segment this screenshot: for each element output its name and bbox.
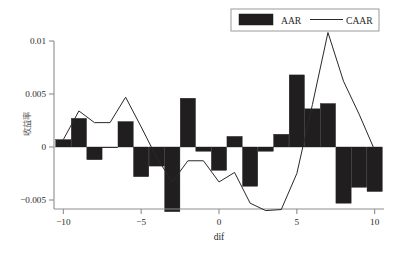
bar [320,104,335,147]
bar [211,147,226,170]
bar [102,147,117,148]
chart-container: −0.00500.0050.01 −10−50510 收益率 dif AAR C… [0,0,394,255]
bar [289,75,304,147]
bar [56,140,71,147]
x-tick-label: −5 [136,217,146,227]
bar [367,147,382,192]
bar [71,118,86,147]
x-tick-label: 0 [217,217,222,227]
bar [118,122,133,147]
y-axis-title: 收益率 [22,112,32,136]
y-tick-label: 0.005 [25,89,46,99]
bar [196,147,211,151]
bar [87,147,102,160]
bar-series-aar [56,75,383,212]
legend-label-caar: CAAR [346,15,373,26]
x-axis-ticks: −10−50510 [56,209,380,227]
bar [227,136,242,147]
y-tick-label: −0.005 [20,195,46,205]
legend-label-aar: AAR [281,15,302,26]
bar [351,147,366,187]
x-tick-label: 10 [370,217,380,227]
x-axis-title: dif [214,231,225,242]
aar-caar-chart: −0.00500.0050.01 −10−50510 收益率 dif AAR C… [0,0,394,255]
bar [134,147,149,177]
chart-legend: AAR CAAR [231,9,379,31]
bar [274,134,289,147]
bar [258,147,273,151]
legend-swatch-aar [239,14,273,25]
bar [180,98,195,147]
bar [243,147,258,186]
bar [165,147,180,212]
bar [336,147,351,203]
y-tick-label: 0 [41,142,46,152]
x-tick-label: −10 [56,217,71,227]
x-tick-label: 5 [295,217,300,227]
y-tick-label: 0.01 [30,36,46,46]
